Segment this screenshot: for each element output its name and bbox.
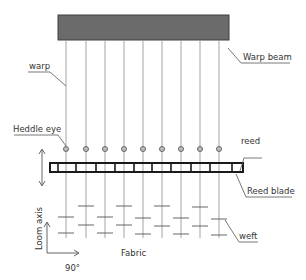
weft-picks — [58, 206, 227, 235]
label-warp-beam: Warp beam — [243, 52, 292, 62]
label-warp: warp — [29, 61, 50, 71]
reed — [50, 163, 243, 172]
label-loom-axis: Loom axis — [34, 206, 44, 250]
label-reed-blade: Reed blade — [247, 186, 295, 196]
label-heddle-eye: Heddle eye — [13, 124, 61, 134]
warp-threads — [66, 40, 219, 238]
label-weft: weft — [239, 231, 258, 241]
loom-diagram: Warp beam warp Heddle eye reed Reed blad… — [0, 0, 306, 280]
heddle-eyes — [64, 147, 222, 152]
reed-motion-arrow-icon — [39, 149, 45, 186]
label-fabric: Fabric — [121, 248, 147, 258]
label-reed: reed — [241, 136, 260, 146]
label-angle: 90° — [65, 263, 80, 273]
loom-axis-arrow-icon — [44, 222, 79, 256]
warp-beam — [58, 15, 229, 40]
